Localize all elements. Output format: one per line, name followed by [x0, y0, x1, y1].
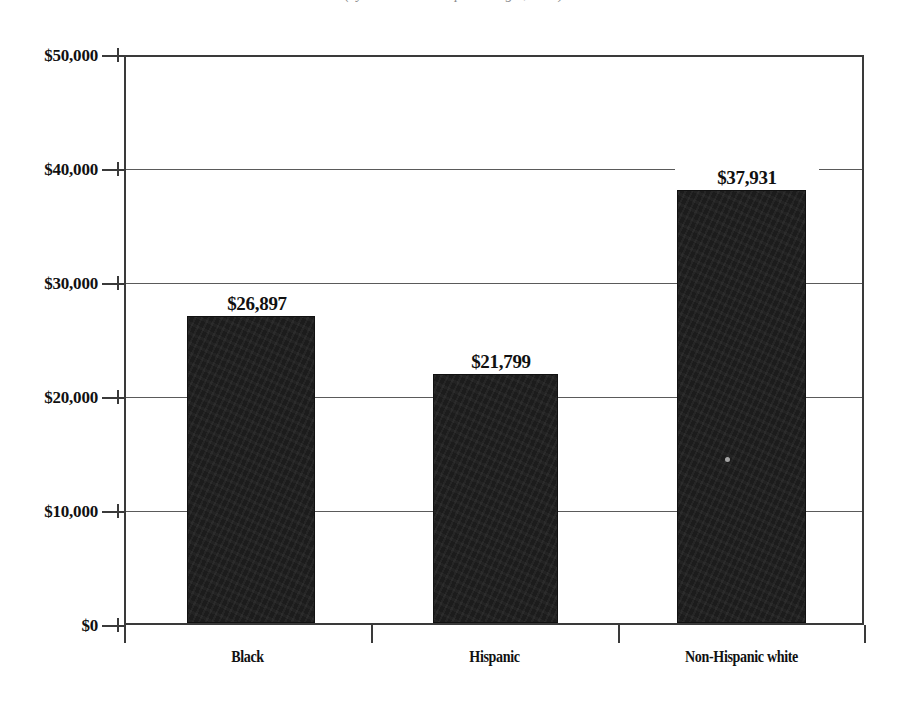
- x-axis-label-non-hispanic-white: Non-Hispanic white: [633, 648, 850, 666]
- x-axis-tick-mark: [864, 625, 866, 643]
- y-axis-tick-cross: [117, 390, 119, 404]
- y-axis-tick-mark: [102, 169, 124, 171]
- bar-value-label-hispanic: $21,799: [431, 351, 571, 373]
- bar-value-label-non-hispanic-white: $37,931: [675, 167, 819, 189]
- y-axis-tick-cross: [117, 504, 119, 518]
- y-axis-tick-mark: [102, 397, 124, 399]
- x-axis-label-hispanic: Hispanic: [386, 648, 603, 666]
- y-axis-tick-label: $30,000: [44, 274, 98, 294]
- bar-value-label-black: $26,897: [185, 293, 329, 315]
- x-axis-label-black: Black: [139, 648, 356, 666]
- y-axis-tick-label: $0: [81, 616, 98, 636]
- y-axis-tick-label: $40,000: [44, 160, 98, 180]
- bar-non-hispanic-white: [677, 190, 806, 623]
- scan-artifact-speck: [725, 457, 730, 462]
- bar-black: [187, 316, 315, 623]
- y-axis-tick-cross: [117, 618, 119, 632]
- y-axis-tick-mark: [102, 55, 124, 57]
- y-axis-tick-label: $50,000: [44, 46, 98, 66]
- y-axis-tick-cross: [117, 48, 119, 62]
- y-axis-tick-mark: [102, 283, 124, 285]
- y-axis-tick-label: $10,000: [44, 502, 98, 522]
- y-axis-tick-cross: [117, 162, 119, 176]
- y-axis-tick-mark: [102, 511, 124, 513]
- bar-hispanic: [433, 374, 558, 623]
- y-axis-tick-label: $20,000: [44, 388, 98, 408]
- y-axis-tick-mark: [102, 625, 124, 627]
- x-axis-tick-mark: [618, 625, 620, 643]
- x-axis-tick-mark: [124, 625, 126, 643]
- plot-area: [124, 55, 864, 625]
- bar-chart: $50,000 $40,000 $30,000 $20,000 $10,000 …: [0, 0, 908, 715]
- y-axis-tick-cross: [117, 276, 119, 290]
- x-axis-tick-mark: [371, 625, 373, 643]
